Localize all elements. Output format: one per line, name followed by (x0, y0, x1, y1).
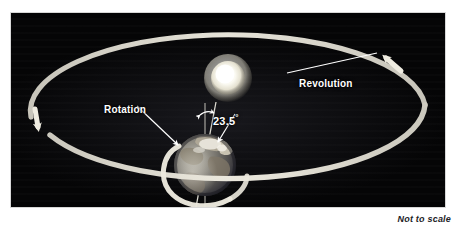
figure-root: Revolution Rotation 23.5° Not to scale (0, 0, 456, 226)
leader-lines (137, 53, 377, 145)
diagram-artwork (11, 13, 445, 207)
caption-not-to-scale: Not to scale (398, 214, 451, 224)
sun (204, 54, 252, 102)
tilt-angle-indicator (200, 112, 214, 115)
label-axial-tilt: 23.5° (213, 112, 239, 127)
axial-tilt-value: 23.5 (213, 115, 235, 127)
space-panel: Revolution Rotation 23.5° (11, 13, 445, 207)
label-revolution: Revolution (299, 78, 353, 90)
label-rotation: Rotation (104, 104, 146, 116)
revolution-leader-line (287, 53, 377, 73)
degree-symbol: ° (235, 113, 238, 122)
earth (174, 134, 236, 196)
revolution-arrow-left (35, 109, 38, 127)
earth-surface (174, 134, 236, 196)
